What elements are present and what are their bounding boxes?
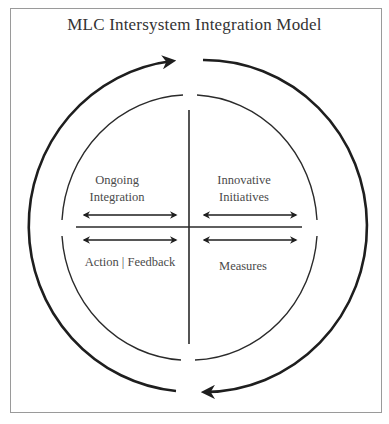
inner-circle-arc-bottom-right <box>195 236 317 360</box>
quadrant-label-top-right-line2: Initiatives <box>219 190 269 204</box>
quadrant-label-bottom-right: Measures <box>219 259 267 273</box>
outer-cycle-arrow-right <box>203 60 367 392</box>
outer-cycle-arrow-left <box>29 61 176 391</box>
integration-model-diagram: Ongoing Integration Innovative Initiativ… <box>0 0 389 424</box>
quadrant-label-top-left-line1: Ongoing <box>95 173 140 187</box>
quadrant-label-top-left-line2: Integration <box>90 190 146 204</box>
quadrant-label-top-right-line1: Innovative <box>217 173 271 187</box>
quadrant-label-bottom-left: Action | Feedback <box>85 255 176 269</box>
